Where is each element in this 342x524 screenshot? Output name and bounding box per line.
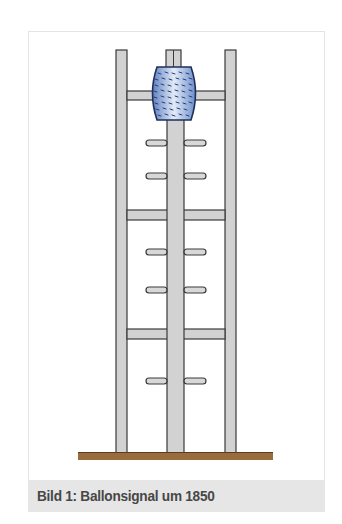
ballon-signal-diagram: [0, 0, 342, 524]
right-pole: [225, 50, 236, 453]
figure-caption: Bild 1: Ballonsignal um 1850: [28, 480, 325, 512]
caption-text: Bild 1: Ballonsignal um 1850: [37, 487, 215, 505]
left-pole: [116, 50, 127, 453]
center-mast: [167, 118, 184, 453]
ground: [78, 452, 273, 460]
signal-balloon: [153, 67, 196, 120]
